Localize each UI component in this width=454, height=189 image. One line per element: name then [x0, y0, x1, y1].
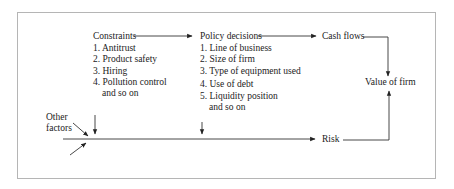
policy-title: Policy decisions: [200, 31, 262, 42]
constraint-item: 2. Product safety: [93, 54, 157, 65]
policy-item: 5. Liquidity position: [200, 91, 278, 102]
edge-risk-to-value: [343, 91, 389, 140]
constraint-item: 3. Hiring: [93, 66, 127, 77]
constraint-item: and so on: [102, 88, 138, 99]
policy-item: 2. Size of firm: [200, 54, 255, 65]
constraints-title: Constraints: [93, 31, 136, 42]
policy-item: 1. Line of business: [200, 43, 272, 54]
other-factors-label: Other: [46, 112, 68, 123]
constraint-item: 4. Pollution control: [93, 77, 167, 88]
edge-cashflows-to-value: [363, 37, 388, 76]
cash-flows-label: Cash flows: [322, 31, 365, 42]
value-of-firm-label: Value of firm: [365, 77, 416, 88]
edge-other-factors-upper: [73, 123, 88, 136]
other-factors-label: factors: [46, 123, 72, 134]
constraint-item: 1. Antitrust: [93, 43, 136, 54]
edge-other-factors-lower: [70, 143, 86, 155]
policy-item: 4. Use of debt: [200, 79, 253, 90]
risk-label: Risk: [322, 134, 339, 145]
policy-item: 3. Type of equipment used: [200, 66, 301, 77]
policy-item: and so on: [209, 102, 245, 113]
